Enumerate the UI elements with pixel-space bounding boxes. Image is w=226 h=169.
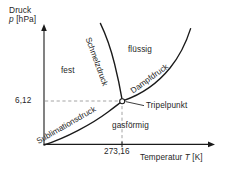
triple-point-leader-line: [126, 102, 144, 106]
x-axis-arrow: [208, 142, 215, 148]
region-label-gas: gasförmig: [112, 121, 149, 130]
y-axis-tick-label: 6,12: [15, 96, 31, 105]
x-axis-tick-label: 273,16: [104, 147, 130, 156]
y-axis-arrow: [41, 24, 47, 31]
region-label-liquid: flüssig: [128, 45, 152, 54]
y-axis-title: Druck p [hPa]: [9, 6, 36, 25]
sublimation-curve: [44, 102, 121, 145]
phase-diagram-figure: Druck p [hPa] 6,12 273,16 Temperatur T […: [0, 0, 226, 169]
temperature-unit: [K]: [190, 153, 203, 162]
melting-curve: [100, 23, 122, 100]
triple-point-label: Tripelpunkt: [146, 101, 187, 110]
x-axis-title: Temperatur T [K]: [140, 153, 203, 162]
triple-point-guides: [45, 101, 122, 144]
region-label-solid: fest: [61, 66, 75, 75]
x-axis-title-text: Temperatur: [140, 153, 185, 162]
triple-point-marker: [120, 99, 125, 104]
phase-diagram-canvas: [0, 0, 226, 169]
y-axis-title-line2: p [hPa]: [9, 15, 36, 24]
pressure-unit: [hPa]: [14, 14, 36, 24]
